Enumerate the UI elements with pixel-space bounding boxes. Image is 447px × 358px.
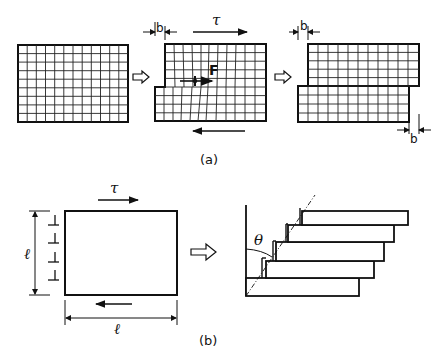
- shear-label-tau-b: τ: [110, 179, 119, 197]
- stage1-grid-block: [18, 45, 128, 122]
- offset-label-b: b: [156, 21, 164, 35]
- angle-label-theta: θ: [254, 231, 263, 249]
- angle-arc: [246, 249, 272, 257]
- dislocation-symbols: [48, 215, 59, 280]
- hollow-arrow-icon: [133, 71, 149, 83]
- width-label: ℓ: [114, 320, 120, 338]
- figure-canvas: F b τ: [0, 0, 447, 358]
- hollow-arrow-icon: [275, 71, 291, 83]
- offset-label-b-bottom: b: [410, 132, 418, 146]
- stage3-offset-top: b: [289, 19, 320, 40]
- stage2-offset-dimension: b: [143, 21, 177, 40]
- shear-label-tau: τ: [212, 11, 221, 29]
- panel-b-square: τ ℓ ℓ: [24, 179, 177, 338]
- stage3-offset-bottom: b: [397, 114, 431, 146]
- stage3-slipped-block: [298, 44, 419, 122]
- stage2-dislocated-block: F: [155, 44, 266, 121]
- hollow-arrow-icon: [191, 244, 216, 260]
- force-label: F: [209, 62, 219, 78]
- caption-a: (a): [200, 152, 218, 167]
- offset-label-b-top: b: [300, 19, 308, 33]
- height-label: ℓ: [24, 245, 30, 263]
- caption-b: (b): [199, 333, 217, 348]
- panel-b-stacked-plates: θ: [246, 195, 408, 296]
